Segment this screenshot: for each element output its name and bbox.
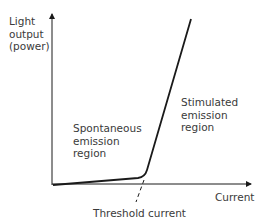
x-axis-label: Current <box>215 191 254 204</box>
stimulated-emission-label: Stimulated emission region <box>181 96 238 134</box>
threshold-dashed-line <box>136 180 144 202</box>
threshold-current-label: Threshold current <box>93 207 186 220</box>
y-axis-label: Light output (power) <box>9 15 50 53</box>
light-output-curve <box>53 19 191 185</box>
spontaneous-emission-label: Spontaneous emission region <box>73 122 142 160</box>
